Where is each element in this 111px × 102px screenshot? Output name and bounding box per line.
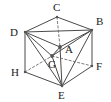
vertex-point-b <box>91 29 93 31</box>
cube-hidden-edges <box>25 17 92 72</box>
vertex-label-h: H <box>11 66 19 78</box>
vertex-point-e <box>61 85 63 87</box>
vertex-label-d: D <box>10 26 18 38</box>
vertex-label-f: F <box>96 60 102 72</box>
vertex-point-c <box>56 16 58 18</box>
hidden-edge-ca <box>57 17 60 47</box>
cube-diagram-canvas: CBDAGFHE <box>0 0 111 102</box>
edge-dc <box>25 17 57 32</box>
vertex-label-g: G <box>48 58 56 70</box>
vertex-point-h <box>24 71 26 73</box>
cube-solid-edges <box>25 17 92 86</box>
vertex-point-d <box>24 31 26 33</box>
edge-cb <box>57 17 92 30</box>
edge-he <box>25 72 62 86</box>
vertex-point-a <box>58 45 62 49</box>
vertex-label-c: C <box>53 1 60 13</box>
cube-diagram-figure: CBDAGFHE <box>0 0 111 102</box>
vertex-point-f <box>91 65 93 67</box>
hidden-edge-gf <box>52 56 92 66</box>
vertex-label-a: A <box>65 43 73 55</box>
vertex-label-b: B <box>96 15 103 27</box>
edge-ef <box>62 66 92 86</box>
vertex-label-e: E <box>58 89 65 101</box>
